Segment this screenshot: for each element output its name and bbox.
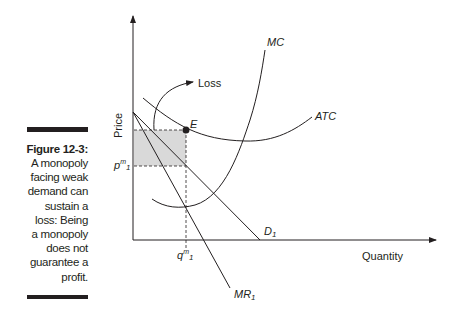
y-axis-label: Price (112, 113, 124, 138)
x-axis-label: Quantity (362, 250, 403, 262)
mc-curve (152, 50, 265, 207)
point-e (183, 127, 190, 134)
loss-label: Loss (198, 77, 222, 89)
monopoly-loss-chart: Loss E MC ATC D1 MR1 pm1 qm1 Quantity Pr… (0, 0, 460, 316)
mc-label: MC (267, 36, 284, 48)
price-tick-label: pm1 (113, 158, 130, 172)
atc-label: ATC (314, 110, 336, 122)
quantity-tick-label: qm1 (177, 248, 193, 262)
mr-label: MR1 (234, 288, 256, 302)
point-e-label: E (190, 118, 198, 130)
demand-curve (133, 112, 260, 240)
demand-label: D1 (264, 225, 276, 239)
loss-arrow (154, 82, 193, 130)
